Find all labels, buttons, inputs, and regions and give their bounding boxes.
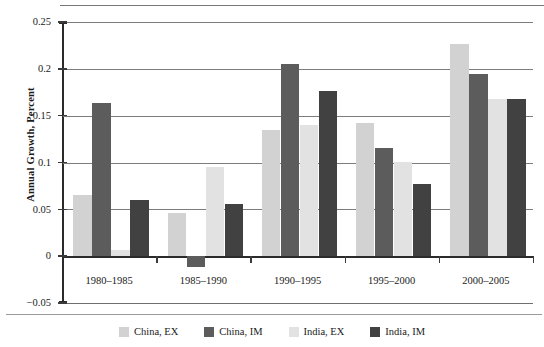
gridline: [63, 22, 533, 23]
bar: [73, 195, 92, 256]
y-axis-tick: 0.1: [58, 162, 67, 163]
bar: [225, 204, 244, 256]
legend-divider-rule: [6, 314, 542, 315]
bar: [356, 123, 375, 256]
bar: [469, 74, 488, 256]
y-axis-tick: 0.05: [58, 209, 67, 210]
y-axis-tick-label: 0.15: [33, 109, 51, 120]
chart-legend: China, EXChina, IMIndia, EXIndia, IM: [0, 326, 544, 337]
plot-area: 0.250.20.150.10.050−0.05: [62, 22, 533, 303]
bar: [92, 103, 111, 256]
legend-swatch: [370, 327, 380, 337]
x-axis-tick: [439, 256, 440, 263]
bar: [413, 184, 432, 256]
bar-chart: Annual Growth, Percent 0.250.20.150.10.0…: [0, 0, 544, 347]
legend-item: India, EX: [289, 326, 345, 337]
legend-item: China, EX: [119, 326, 178, 337]
bar: [130, 200, 149, 256]
bar: [488, 99, 507, 256]
legend-item: India, IM: [370, 326, 425, 337]
legend-swatch: [289, 327, 299, 337]
x-axis-tick-label: 1985–1990: [180, 275, 227, 286]
y-axis-tick: 0.15: [58, 115, 67, 116]
bar: [319, 91, 338, 256]
bar: [375, 148, 394, 257]
legend-item: China, IM: [204, 326, 262, 337]
bar: [300, 125, 319, 256]
legend-label: China, EX: [134, 326, 178, 337]
legend-label: China, IM: [219, 326, 262, 337]
bar: [168, 213, 187, 256]
legend-swatch: [204, 327, 214, 337]
x-axis-tick-label: 1980–1985: [85, 275, 132, 286]
top-divider-rule: [60, 5, 544, 6]
bar: [111, 250, 130, 257]
x-axis-tick-label: 1990–1995: [274, 275, 321, 286]
x-axis-tick: [345, 256, 346, 263]
y-axis-tick: 0.2: [58, 68, 67, 69]
zero-baseline: [63, 256, 533, 258]
bar: [394, 162, 413, 257]
y-axis-tick: 0.25: [58, 21, 67, 22]
y-axis-tick: −0.05: [58, 302, 67, 303]
legend-label: India, IM: [385, 326, 425, 337]
x-axis-tick-label: 1995–2000: [368, 275, 415, 286]
y-axis-tick-label: 0.2: [38, 63, 51, 74]
bar: [507, 99, 526, 256]
bar: [206, 167, 225, 256]
bar: [281, 64, 300, 256]
y-axis-tick-label: 0.05: [33, 203, 51, 214]
x-axis-tick: [156, 256, 157, 263]
gridline: [63, 303, 533, 304]
y-axis-tick-label: 0.1: [38, 156, 51, 167]
y-axis-tick: 0: [58, 255, 67, 256]
y-axis-title: Annual Growth, Percent: [25, 45, 36, 245]
bar: [262, 130, 281, 256]
bar: [187, 256, 206, 267]
x-axis-tick-label: 2000–2005: [462, 275, 509, 286]
y-axis-tick-label: −0.05: [27, 297, 51, 308]
x-axis-tick: [533, 256, 534, 263]
y-axis-tick-label: 0.25: [33, 16, 51, 27]
legend-swatch: [119, 327, 129, 337]
y-axis-tick-label: 0: [46, 250, 51, 261]
bar: [450, 44, 469, 257]
legend-label: India, EX: [304, 326, 345, 337]
x-axis-tick: [250, 256, 251, 263]
